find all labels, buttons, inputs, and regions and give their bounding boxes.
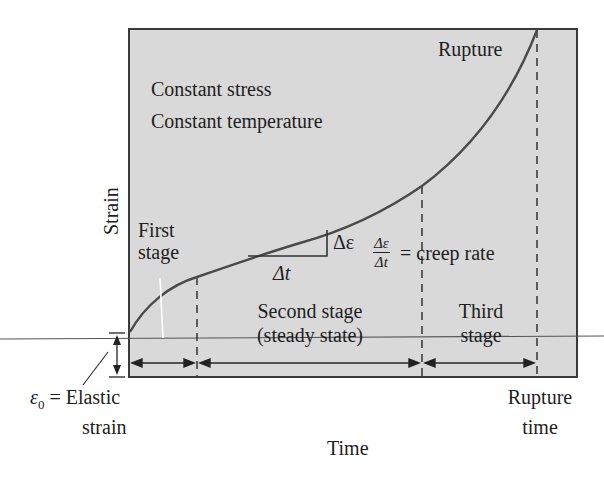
third-stage-line1: Third xyxy=(425,300,537,322)
rupture-time-line2: time xyxy=(495,416,585,438)
rupture-label: Rupture xyxy=(438,38,502,60)
elastic-arrow-up xyxy=(113,335,121,345)
fraction-numerator: Δε xyxy=(373,235,390,253)
elastic-leader xyxy=(83,352,108,385)
creep-rate-text: = creep rate xyxy=(400,242,495,264)
elastic-strain-line2: strain xyxy=(82,416,126,438)
elastic-text: = Elastic xyxy=(49,386,120,408)
creep-rate-fraction: Δε Δt xyxy=(373,235,390,270)
second-stage-line2: (steady state) xyxy=(200,324,420,346)
condition-temperature: Constant temperature xyxy=(151,110,323,132)
rupture-time-line1: Rupture xyxy=(495,386,585,408)
epsilon-subscript: 0 xyxy=(38,397,45,412)
elastic-arrow-down xyxy=(113,365,121,375)
third-stage-line2: stage xyxy=(425,324,537,346)
delta-t-label: Δt xyxy=(273,262,290,284)
second-stage-line1: Second stage xyxy=(200,300,420,322)
elastic-strain-label: ε0 = Elastic xyxy=(30,386,120,416)
first-stage-line1: First xyxy=(138,219,175,241)
condition-stress: Constant stress xyxy=(151,78,272,100)
epsilon-symbol: ε xyxy=(30,386,38,408)
y-axis-label: Strain xyxy=(100,187,123,235)
first-stage-line2: stage xyxy=(138,241,179,263)
fraction-denominator: Δt xyxy=(375,253,388,270)
x-axis-label: Time xyxy=(327,437,369,459)
delta-epsilon-label: Δε xyxy=(333,231,354,253)
